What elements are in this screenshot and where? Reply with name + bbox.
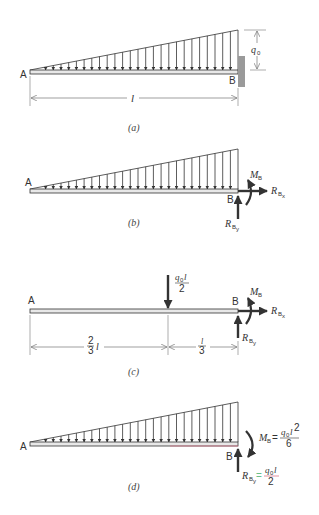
beam-d bbox=[30, 442, 238, 446]
reaction-value-label: R B y = q 0 l 2 bbox=[241, 465, 279, 487]
point-label-a: A bbox=[20, 69, 27, 80]
q0-dimension: q 0 bbox=[244, 30, 266, 70]
point-label-b: B bbox=[227, 194, 234, 205]
svg-text:3: 3 bbox=[199, 345, 205, 356]
moment-mb-arrow bbox=[246, 431, 253, 457]
svg-text:=: = bbox=[256, 470, 262, 481]
svg-text:l: l bbox=[274, 465, 277, 475]
svg-text:2: 2 bbox=[179, 283, 185, 294]
span-dimension-l: l bbox=[30, 76, 238, 106]
point-label-a: A bbox=[25, 177, 32, 188]
svg-text:B: B bbox=[258, 292, 262, 298]
panel-c: A B q 0 l 2 M B R B x R B y 2 bbox=[28, 272, 285, 378]
point-label-b: B bbox=[226, 451, 233, 462]
distributed-load-a bbox=[30, 30, 238, 70]
caption-b: (b) bbox=[128, 217, 140, 229]
svg-text:R: R bbox=[270, 305, 277, 316]
beam-c bbox=[30, 309, 238, 313]
distributed-load-b bbox=[30, 149, 238, 189]
point-label-a: A bbox=[20, 441, 27, 452]
point-label-a: A bbox=[28, 295, 35, 306]
svg-text:=: = bbox=[272, 432, 278, 443]
svg-text:B: B bbox=[258, 175, 262, 181]
svg-text:y: y bbox=[253, 340, 256, 346]
dimension-lines-c: 2 3 l l 3 bbox=[30, 315, 238, 357]
svg-text:R: R bbox=[241, 332, 248, 343]
point-label-b: B bbox=[229, 75, 236, 86]
panel-b: A B M B R B x R B y (b) bbox=[25, 149, 285, 232]
svg-text:2: 2 bbox=[268, 476, 274, 487]
panel-d: A B M B = q 0 l 2 6 R B y = q 0 l 2 (d) bbox=[20, 402, 300, 493]
svg-text:q: q bbox=[251, 44, 256, 55]
moment-mb-arrow bbox=[246, 180, 251, 205]
svg-text:R: R bbox=[270, 185, 277, 196]
svg-text:2: 2 bbox=[294, 422, 300, 433]
panel-a: A B q 0 l (a) bbox=[20, 30, 266, 134]
beam-a bbox=[30, 70, 238, 74]
svg-text:l: l bbox=[290, 427, 293, 437]
resultant-label: q 0 l 2 bbox=[175, 272, 189, 294]
caption-c: (c) bbox=[128, 366, 140, 378]
point-label-b: B bbox=[232, 296, 239, 307]
svg-text:6: 6 bbox=[286, 438, 292, 449]
moment-value-label: M B = q 0 l 2 6 bbox=[258, 422, 300, 449]
svg-text:l: l bbox=[184, 272, 187, 282]
distributed-load-d bbox=[30, 402, 238, 442]
svg-text:R: R bbox=[241, 470, 248, 481]
svg-text:x: x bbox=[282, 193, 285, 199]
svg-text:l: l bbox=[131, 92, 134, 104]
svg-text:y: y bbox=[236, 226, 239, 232]
svg-text:B: B bbox=[267, 438, 271, 444]
caption-a: (a) bbox=[128, 122, 140, 134]
caption-d: (d) bbox=[128, 481, 140, 493]
fixed-wall-b bbox=[238, 56, 245, 87]
svg-text:l: l bbox=[96, 341, 99, 352]
svg-text:x: x bbox=[282, 313, 285, 319]
beam-free-body-diagrams: A B q 0 l (a) bbox=[0, 0, 319, 515]
svg-text:R: R bbox=[224, 218, 231, 229]
beam-b bbox=[30, 189, 238, 193]
svg-text:3: 3 bbox=[88, 345, 94, 356]
